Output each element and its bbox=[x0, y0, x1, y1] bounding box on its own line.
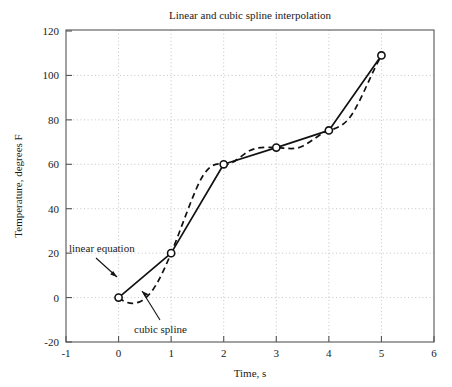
annotation-linear-equation-label: linear equation bbox=[69, 242, 135, 254]
linear-equation-series bbox=[119, 55, 382, 297]
x-tick-label-0: 0 bbox=[116, 347, 122, 359]
x-tick-label--1: -1 bbox=[61, 347, 70, 359]
interpolation-chart: Linear and cubic spline interpolation bbox=[0, 0, 452, 387]
y-tick-labels: -20 0 20 40 60 80 100 120 bbox=[43, 25, 60, 348]
x-tick-label-5: 5 bbox=[379, 347, 385, 359]
y-tick-label-80: 80 bbox=[48, 114, 60, 126]
x-tick-label-4: 4 bbox=[326, 347, 332, 359]
data-point-marker bbox=[115, 294, 122, 301]
y-tick-label-120: 120 bbox=[43, 25, 60, 37]
data-point-marker bbox=[220, 161, 227, 168]
data-point-marker bbox=[273, 144, 280, 151]
x-tick-label-1: 1 bbox=[168, 347, 174, 359]
data-point-marker bbox=[378, 52, 385, 59]
y-tick-label-40: 40 bbox=[48, 203, 60, 215]
data-point-marker bbox=[168, 250, 175, 257]
x-tick-label-2: 2 bbox=[221, 347, 227, 359]
chart-figure: Linear and cubic spline interpolation bbox=[0, 0, 452, 387]
y-tick-marks bbox=[66, 31, 72, 342]
y-tick-label-20: 20 bbox=[48, 247, 60, 259]
y-tick-label--20: -20 bbox=[44, 336, 59, 348]
x-tick-label-3: 3 bbox=[274, 347, 280, 359]
x-tick-marks bbox=[66, 336, 434, 342]
x-axis-label: Time, s bbox=[234, 367, 267, 379]
chart-title: Linear and cubic spline interpolation bbox=[169, 9, 331, 21]
cubic-spline-series bbox=[119, 55, 382, 303]
annotation-linear-equation: linear equation bbox=[69, 242, 135, 277]
y-tick-label-0: 0 bbox=[54, 292, 60, 304]
y-tick-label-60: 60 bbox=[48, 158, 60, 170]
y-tick-label-100: 100 bbox=[43, 69, 60, 81]
data-point-markers bbox=[115, 52, 385, 301]
y-axis-label: Temperature, degrees F bbox=[12, 134, 24, 237]
x-tick-label-6: 6 bbox=[431, 347, 437, 359]
annotation-cubic-spline-label: cubic spline bbox=[134, 323, 187, 335]
data-point-marker bbox=[325, 127, 332, 134]
x-tick-labels: -1 0 1 2 3 4 5 6 bbox=[61, 347, 437, 359]
